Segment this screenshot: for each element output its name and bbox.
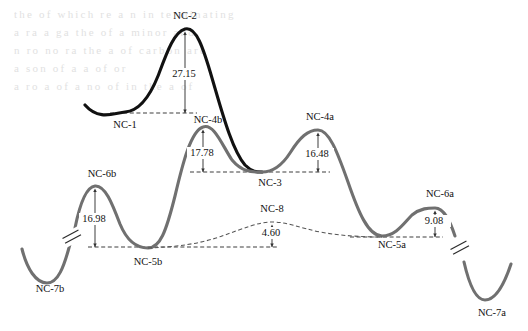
bleed-text-line: a ra a ga the of a minor and: [14, 26, 196, 38]
bleed-text-line: the of which re a n in terminating: [14, 8, 236, 20]
state-label-NC-7b: NC-7b: [36, 283, 65, 294]
bleed-text-line: n ro no ra the a of carbon are: [14, 44, 207, 56]
curve-gray-branch-b-left: [22, 244, 70, 283]
energy-profile-diagram: the of which re a n in terminatinga ra a…: [0, 0, 528, 331]
barrier-value-NC-5a-NC-6a: 9.08: [425, 215, 443, 226]
state-label-NC-6a: NC-6a: [426, 188, 454, 199]
state-label-NC-5b: NC-5b: [134, 256, 163, 267]
state-label-NC-4a: NC-4a: [306, 111, 334, 122]
bleed-text-line: a son of a a of or: [14, 62, 128, 74]
barrier-value-NC-5b-NC-8: 4.60: [262, 227, 280, 238]
state-label-layer: NC-1NC-2NC-4bNC-3NC-4aNC-5aNC-6aNC-7aNC-…: [36, 10, 507, 318]
barrier-value-NC-5b-NC-6b: 16.98: [82, 213, 106, 224]
state-label-NC-8: NC-8: [260, 203, 283, 214]
state-label-NC-6b: NC-6b: [88, 168, 117, 179]
bleed-text-line: a ro a of a no of in the a of: [14, 80, 194, 92]
state-label-NC-4b: NC-4b: [194, 114, 223, 125]
barrier-value-NC-3-NC-4a: 16.48: [305, 148, 329, 159]
barrier-value-NC-1-NC-2: 27.15: [172, 68, 196, 79]
break-left: [59, 226, 85, 249]
barrier-arrow-layer: 27.1517.7816.4816.989.084.60: [79, 35, 451, 247]
state-label-NC-1: NC-1: [113, 119, 136, 130]
state-label-NC-2: NC-2: [173, 10, 196, 21]
barrier-value-NC-3-NC-4b: 17.78: [190, 147, 214, 158]
curve-gray-branch-a-tail: [464, 262, 511, 300]
break-right: [447, 237, 473, 260]
state-label-NC-5a: NC-5a: [378, 239, 406, 250]
state-label-NC-3: NC-3: [258, 177, 281, 188]
state-label-NC-7a: NC-7a: [478, 307, 506, 318]
